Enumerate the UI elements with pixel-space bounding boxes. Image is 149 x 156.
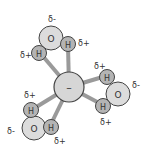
partial-positive-charge: δ+ [100,118,112,127]
water-molecule-bottom-left: O H H δ- δ+ δ+ [7,91,66,146]
oxygen-label: O [114,90,121,100]
partial-positive-charge: δ+ [94,62,106,71]
partial-positive-charge: δ+ [20,51,32,60]
partial-positive-charge: δ+ [54,137,66,146]
oxygen-label: O [30,124,37,134]
hydrogen-label: H [48,124,54,133]
anion: – [54,72,84,102]
partial-negative-charge: δ- [48,15,56,24]
hydrogen-label: H [36,50,42,59]
ion-charge: – [66,81,72,94]
hydrogen-label: H [100,103,106,112]
hydrogen-label: H [65,41,71,50]
hydrogen-label: H [28,107,34,116]
water-molecule-right: O H H δ- δ+ δ+ [94,62,140,127]
partial-positive-charge: δ+ [78,39,90,48]
oxygen-label: O [47,34,54,44]
partial-negative-charge: δ- [132,81,140,90]
hydrogen-label: H [104,74,110,83]
partial-negative-charge: δ- [7,127,15,136]
partial-positive-charge: δ+ [24,91,36,100]
hydration-diagram: – O H H δ- δ+ δ+ O H H δ- δ+ δ+ O H H δ-… [0,0,149,156]
water-molecule-top: O H H δ- δ+ δ+ [20,15,90,61]
